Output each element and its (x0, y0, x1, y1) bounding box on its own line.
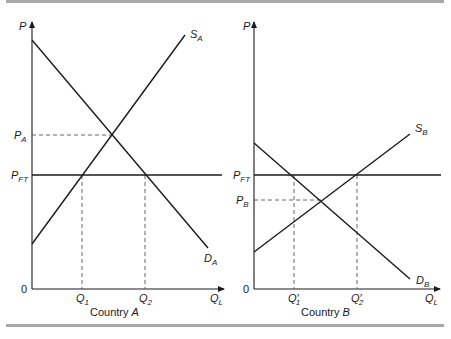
caption-country-a: Country A (90, 306, 139, 318)
bottom-rule (6, 324, 444, 327)
caption-country-b: Country B (301, 306, 350, 318)
supply-label-a: SA (190, 28, 203, 43)
autarky-price-label-a: PA (14, 129, 27, 144)
q1-prime-label-b: Q′1 (288, 292, 300, 307)
origin-label-b: 0 (243, 283, 249, 295)
top-rule (6, 0, 444, 3)
autarky-price-label-b: PB (236, 194, 249, 209)
q2-prime-label-b: Q′2 (351, 292, 364, 307)
x-axis-label-b: QL (425, 292, 438, 307)
free-trade-price-label-a: PFT (11, 169, 29, 184)
x-axis-label-a: QL (210, 292, 223, 307)
q1-label-a: Q1 (76, 292, 89, 307)
supply-curve-b (254, 134, 410, 252)
demand-label-a: DA (204, 252, 217, 267)
supply-label-b: SB (415, 122, 428, 137)
y-axis-label-b: P (243, 20, 251, 32)
q2-label-a: Q2 (139, 292, 153, 307)
trade-equilibrium-diagram: P 0 PA PFT SA DA Q1 Q2 QL Country A P 0 … (0, 0, 451, 339)
free-trade-price-label-b: PFT (233, 169, 251, 184)
y-axis-label-a: P (19, 20, 27, 32)
panel-country-a: P 0 PA PFT SA DA Q1 Q2 QL Country A (11, 20, 224, 318)
demand-curve-a (32, 40, 208, 248)
panel-country-b: P 0 PFT PB SB DB Q′1 Q′2 QL Country B (233, 20, 441, 318)
origin-label-a: 0 (21, 283, 27, 295)
demand-curve-b (254, 143, 410, 279)
demand-label-b: DB (416, 274, 430, 289)
